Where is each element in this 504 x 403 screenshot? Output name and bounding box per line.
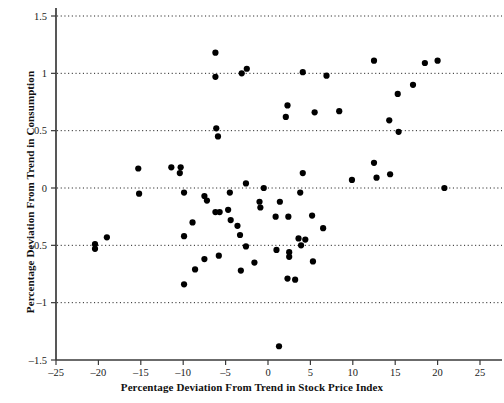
y-tick-label: 1: [42, 68, 47, 79]
data-point: [434, 58, 440, 64]
scatter-plot-figure: –25–20–15–10–50510152025–1.5–1–0.500.511…: [0, 0, 504, 403]
data-point: [395, 91, 401, 97]
data-point: [215, 133, 221, 139]
x-tick-label: 5: [308, 367, 313, 378]
data-point: [300, 170, 306, 176]
data-point: [292, 277, 298, 283]
x-axis-title: Percentage Deviation From Trend in Stock…: [0, 381, 504, 393]
data-point: [273, 214, 279, 220]
x-tick-label: 0: [265, 367, 270, 378]
x-tick-label: –15: [132, 367, 149, 378]
data-point: [371, 160, 377, 166]
x-tick-label: 25: [475, 367, 486, 378]
x-tick-label: –20: [90, 367, 107, 378]
data-point: [441, 185, 447, 191]
data-point: [298, 242, 304, 248]
data-point: [286, 254, 292, 260]
x-tick-label: –25: [47, 367, 64, 378]
data-point: [237, 232, 243, 238]
data-point: [310, 258, 316, 264]
data-point: [135, 165, 141, 171]
data-point: [320, 225, 326, 231]
data-point: [257, 204, 263, 210]
data-point: [225, 207, 231, 213]
data-point: [277, 199, 283, 205]
plot-canvas: –25–20–15–10–50510152025–1.5–1–0.500.511…: [0, 0, 504, 403]
data-point: [387, 171, 393, 177]
data-point: [201, 256, 207, 262]
data-point: [273, 247, 279, 253]
data-point: [244, 66, 250, 72]
data-point: [284, 102, 290, 108]
data-point: [395, 129, 401, 135]
data-point: [243, 180, 249, 186]
data-point: [216, 253, 222, 259]
x-tick-label: 20: [432, 367, 443, 378]
data-point: [295, 235, 301, 241]
data-point: [239, 70, 245, 76]
data-point: [181, 189, 187, 195]
data-point: [192, 266, 198, 272]
data-point: [243, 243, 249, 249]
data-point: [285, 214, 291, 220]
data-point: [297, 189, 303, 195]
x-ticks-group: –25–20–15–10–50510152025: [47, 360, 485, 378]
x-tick-label: 15: [390, 367, 401, 378]
data-point: [309, 212, 315, 218]
data-point: [386, 117, 392, 123]
data-point: [302, 236, 308, 242]
data-point: [177, 170, 183, 176]
data-point: [410, 82, 416, 88]
data-point: [261, 185, 267, 191]
data-point: [204, 197, 210, 203]
data-point: [300, 69, 306, 75]
x-tick-label: 10: [348, 367, 359, 378]
y-tick-label: –1: [36, 297, 48, 308]
y-axis-title: Percentage Deviation From Trend in Consu…: [24, 12, 36, 372]
data-point: [92, 246, 98, 252]
data-point: [136, 191, 142, 197]
y-tick-label: 0: [42, 183, 47, 194]
data-point: [349, 177, 355, 183]
data-point: [217, 209, 223, 215]
data-point: [228, 217, 234, 223]
data-point: [234, 223, 240, 229]
data-point: [181, 281, 187, 287]
data-point: [373, 175, 379, 181]
data-point: [178, 164, 184, 170]
data-point: [227, 189, 233, 195]
data-point: [422, 60, 428, 66]
x-tick-label: –10: [174, 367, 191, 378]
data-point: [181, 233, 187, 239]
data-point: [371, 58, 377, 64]
data-point: [104, 234, 110, 240]
data-point: [213, 125, 219, 131]
data-point: [323, 73, 329, 79]
data-point: [284, 275, 290, 281]
data-point: [168, 164, 174, 170]
x-tick-label: –5: [219, 367, 231, 378]
data-point: [212, 74, 218, 80]
data-point: [283, 114, 289, 120]
data-point: [251, 259, 257, 265]
data-point: [256, 199, 262, 205]
data-point: [312, 109, 318, 115]
data-point: [336, 108, 342, 114]
data-point: [189, 219, 195, 225]
data-point: [212, 50, 218, 56]
data-points-group: [92, 50, 448, 350]
data-point: [238, 267, 244, 273]
data-point: [276, 343, 282, 349]
